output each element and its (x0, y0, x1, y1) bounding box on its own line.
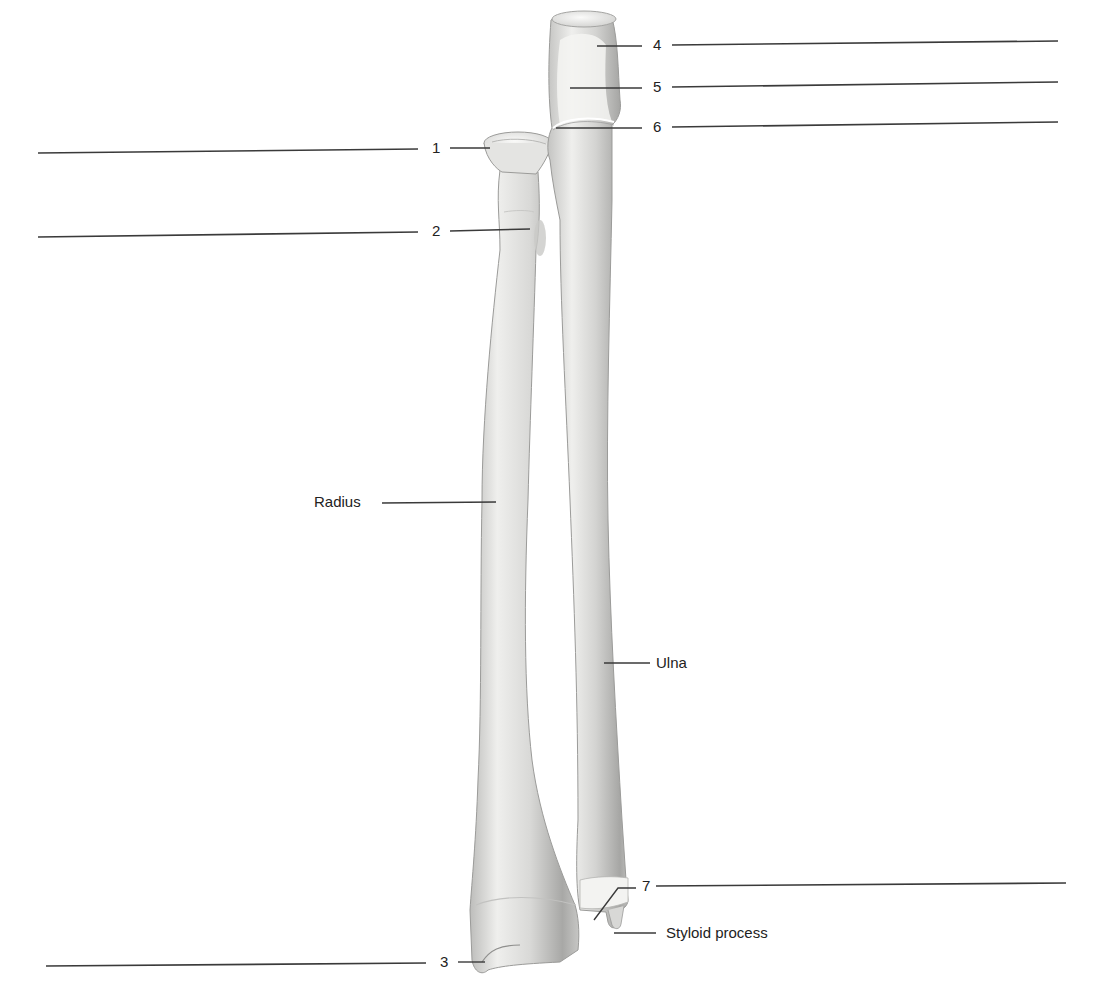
label-number-1: 1 (430, 139, 442, 157)
label-number-7: 7 (640, 877, 652, 895)
label-number-4: 4 (651, 36, 663, 54)
label-radius: Radius (312, 493, 363, 511)
diagram-canvas: 1 2 3 4 5 6 7 Radius Ulna Styloid proces… (0, 0, 1093, 992)
leader-lines (38, 41, 1066, 966)
answer-line-4 (672, 41, 1058, 45)
answer-line-6 (672, 122, 1058, 127)
bone-illustration (0, 0, 1093, 992)
answer-line-1 (38, 149, 418, 153)
label-styloid-process: Styloid process (664, 924, 770, 942)
answer-line-3 (46, 963, 426, 966)
answer-line-2 (38, 232, 418, 237)
answer-line-5 (672, 82, 1058, 87)
ulna-bone (548, 11, 628, 929)
label-ulna: Ulna (654, 654, 689, 672)
label-number-5: 5 (651, 78, 663, 96)
label-number-2: 2 (430, 222, 442, 240)
label-number-6: 6 (651, 118, 663, 136)
answer-line-7 (656, 883, 1066, 886)
label-number-3: 3 (438, 953, 450, 971)
